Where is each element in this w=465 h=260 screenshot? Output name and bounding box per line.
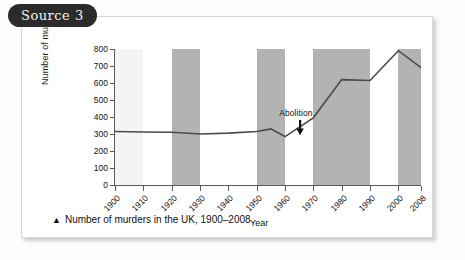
murders-line-series [115, 49, 421, 185]
y-tick-label: 700 [82, 62, 108, 71]
x-axis-title: Year [250, 218, 268, 228]
caption-triangle-icon: ▲ [52, 215, 61, 225]
x-tick [172, 186, 173, 191]
x-tick [200, 186, 201, 191]
x-tick [342, 186, 343, 191]
y-tick-label: 200 [82, 147, 108, 156]
y-tick-label: 100 [82, 164, 108, 173]
x-tick [143, 186, 144, 191]
y-tick-label: 800 [82, 45, 108, 54]
abolition-arrow-icon [295, 120, 305, 136]
x-tick [115, 186, 116, 191]
y-tick-label: 600 [82, 79, 108, 88]
y-tick-label: 500 [82, 96, 108, 105]
y-tick-label: 0 [82, 181, 108, 190]
source-card: Number of murders 0100200300400500600700… [21, 16, 433, 238]
x-tick [398, 186, 399, 191]
x-tick-label: 1980 [318, 193, 349, 224]
x-tick [313, 186, 314, 191]
chart: Number of murders 0100200300400500600700… [44, 43, 424, 218]
x-tick-label: 1990 [346, 193, 377, 224]
x-tick-label: 1970 [289, 193, 320, 224]
y-tick-label: 400 [82, 113, 108, 122]
screenshot-root: Number of murders 0100200300400500600700… [0, 0, 465, 260]
x-tick [228, 186, 229, 191]
source-badge: Source 3 [8, 4, 97, 27]
y-tick-label: 300 [82, 130, 108, 139]
x-tick [370, 186, 371, 191]
figure-caption: ▲Number of murders in the UK, 1900–2008 [52, 214, 251, 225]
abolition-annotation-label: Abolition [279, 108, 313, 118]
x-axis-line [114, 185, 421, 186]
x-tick [421, 186, 422, 191]
x-tick [285, 186, 286, 191]
x-tick [257, 186, 258, 191]
plot-area: Abolition [115, 49, 421, 185]
caption-text: Number of murders in the UK, 1900–2008 [65, 214, 251, 225]
